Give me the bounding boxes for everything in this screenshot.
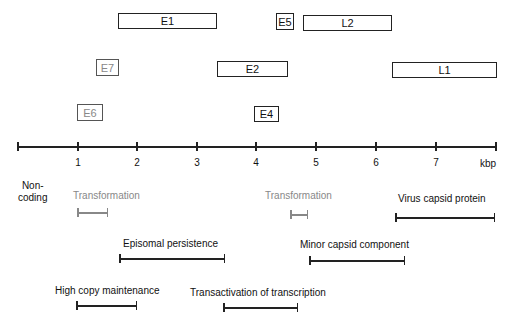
axis-tick (255, 142, 257, 151)
function-range-bar (223, 307, 298, 309)
function-range-bar (76, 305, 137, 307)
gene-box-e1: E1 (118, 13, 217, 29)
gene-box-l1: L1 (392, 62, 497, 78)
axis-tick-label: 5 (313, 157, 319, 168)
function-range-bar (77, 212, 108, 214)
axis-tick-label: 7 (433, 157, 439, 168)
genome-axis (17, 146, 497, 148)
axis-unit-label: kbp (480, 158, 496, 169)
function-label: Transformation (73, 190, 140, 201)
axis-tick-label: 3 (194, 157, 200, 168)
function-label: Episomal persistence (123, 238, 218, 249)
axis-tick (435, 142, 437, 151)
gene-box-e6: E6 (77, 104, 103, 121)
noncoding-label: Non-coding (18, 180, 47, 204)
axis-tick (495, 142, 497, 151)
function-label: Virus capsid protein (398, 193, 486, 204)
axis-tick (77, 142, 79, 151)
function-range-bar (119, 258, 225, 260)
gene-box-e2: E2 (217, 61, 288, 77)
axis-tick (196, 142, 198, 151)
axis-tick-label: 4 (253, 157, 259, 168)
axis-tick-label: 1 (75, 157, 81, 168)
gene-box-l2: L2 (303, 15, 392, 31)
function-range-bar (309, 260, 405, 262)
function-label: Transactivation of transcription (190, 287, 326, 298)
function-range-bar (395, 217, 495, 219)
axis-tick-label: 6 (373, 157, 379, 168)
axis-tick (136, 142, 138, 151)
gene-box-e5: E5 (276, 13, 294, 30)
function-label: High copy maintenance (55, 285, 160, 296)
axis-tick (375, 142, 377, 151)
gene-box-e4: E4 (254, 106, 279, 122)
function-range-bar (290, 214, 308, 216)
axis-tick-label: 2 (134, 157, 140, 168)
function-label: Transformation (265, 190, 332, 201)
axis-tick (315, 142, 317, 151)
function-label: Minor capsid component (300, 239, 409, 250)
axis-tick (17, 142, 19, 151)
gene-box-e7: E7 (96, 59, 119, 76)
